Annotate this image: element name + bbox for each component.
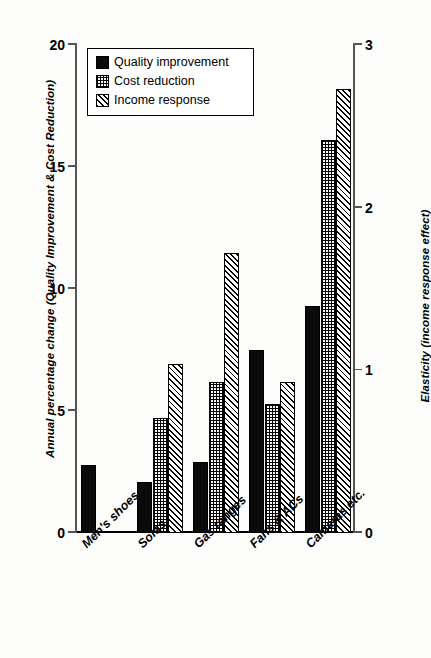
y-axis-right-tick-label: 0 [365,526,373,540]
x-axis-category-label: Fans & ACs [247,492,306,551]
y-axis-right-tick-label: 1 [365,363,373,377]
y-axis-right-title: Elasticity (income response effect) [419,181,431,431]
y-axis-right-tick-label: 3 [365,38,373,52]
y-axis-right-tick-label: 2 [365,201,373,215]
y-axis-left-tick-label: 10 [49,282,65,296]
x-axis-category-label: Gas ranges [191,493,249,551]
y-axis-left-tick-label: 20 [49,38,65,52]
x-axis-category-labels: Men's shoesSofasGas rangesFans & ACsCame… [75,45,355,533]
x-axis-category-label: Sofas [135,517,169,551]
plot-area: 05101520 0123 Quality improvement Cost r… [75,45,355,533]
x-axis-category-label: Cameras etc. [303,486,368,551]
x-axis-category-label: Men's shoes [79,488,142,551]
y-axis-left-tick-label: 15 [49,160,65,174]
y-axis-left-tick-label: 5 [57,404,65,418]
y-axis-left-tick-label: 0 [57,526,65,540]
